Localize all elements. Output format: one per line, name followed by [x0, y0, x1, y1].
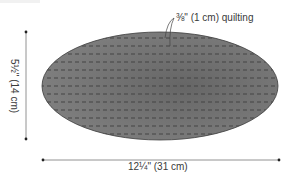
- height-dimension-line: [25, 31, 28, 141]
- cropped-heading-fragment: [0, 0, 40, 3]
- width-dimension-label: 12¼" (31 cm): [128, 162, 188, 172]
- oval-shape: [40, 32, 280, 140]
- height-dimension-label: 5½" (14 cm): [9, 59, 19, 113]
- quilting-callout-label: ⅜" (1 cm) quilting: [176, 13, 253, 23]
- diagram-svg: [0, 0, 284, 178]
- pattern-diagram: ⅜" (1 cm) quilting 5½" (14 cm) 12¼" (31 …: [0, 0, 284, 178]
